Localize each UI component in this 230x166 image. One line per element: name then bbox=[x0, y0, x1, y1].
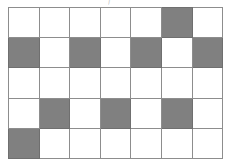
grid-row bbox=[9, 8, 223, 38]
grid-cell-empty bbox=[100, 128, 131, 158]
grid-cell-empty bbox=[161, 128, 192, 158]
grid-cell-shaded bbox=[161, 98, 192, 128]
grid-cell-empty bbox=[131, 98, 162, 128]
grid-cell-empty bbox=[70, 128, 101, 158]
grid-cell-empty bbox=[192, 128, 223, 158]
grid-cell-shaded bbox=[161, 8, 192, 38]
grid-cell-empty bbox=[161, 38, 192, 68]
grid-cell-empty bbox=[70, 98, 101, 128]
grid-row bbox=[9, 68, 223, 98]
grid-cell-empty bbox=[39, 38, 70, 68]
grid-cell-empty bbox=[70, 68, 101, 98]
grid-row bbox=[9, 38, 223, 68]
grid-cell-empty bbox=[131, 128, 162, 158]
grid-cell-shaded bbox=[9, 38, 40, 68]
grid-cell-shaded bbox=[70, 38, 101, 68]
grid-cell-empty bbox=[131, 68, 162, 98]
grid-cell-empty bbox=[70, 8, 101, 38]
grid-figure: j bbox=[0, 0, 230, 166]
grid-cell-empty bbox=[9, 98, 40, 128]
top-clipped-label: j bbox=[108, 0, 114, 5]
grid-cell-empty bbox=[192, 68, 223, 98]
grid-cell-empty bbox=[161, 68, 192, 98]
grid-cell-shaded bbox=[192, 38, 223, 68]
grid-row bbox=[9, 98, 223, 128]
grid-row bbox=[9, 128, 223, 158]
grid-cell-shaded bbox=[39, 98, 70, 128]
grid-body bbox=[9, 8, 223, 159]
grid-cell-empty bbox=[192, 98, 223, 128]
grid-cell-shaded bbox=[131, 38, 162, 68]
grid-cell-empty bbox=[100, 68, 131, 98]
grid-cell-shaded bbox=[9, 128, 40, 158]
grid-cell-empty bbox=[39, 8, 70, 38]
grid-cell-empty bbox=[100, 8, 131, 38]
grid-cell-empty bbox=[100, 38, 131, 68]
checkerboard-grid bbox=[8, 7, 223, 159]
grid-cell-empty bbox=[9, 68, 40, 98]
grid-cell-empty bbox=[39, 68, 70, 98]
grid-cell-empty bbox=[131, 8, 162, 38]
grid-cell-empty bbox=[39, 128, 70, 158]
grid-cell-empty bbox=[192, 8, 223, 38]
grid-cell-shaded bbox=[100, 98, 131, 128]
grid-cell-empty bbox=[9, 8, 40, 38]
